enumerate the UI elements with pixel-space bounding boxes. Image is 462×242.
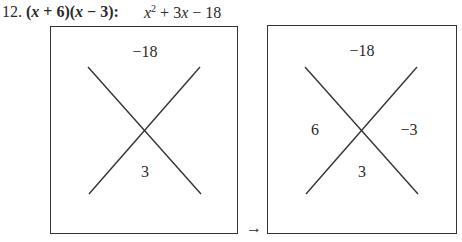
- arrow-icon: →: [246, 219, 262, 237]
- problem-statement: 12. (x + 6)(x − 3):: [2, 3, 119, 21]
- left-factor-label: 6: [311, 121, 319, 139]
- x-box-initial: −18 3: [50, 26, 238, 234]
- bottom-sum-label: 3: [141, 163, 149, 181]
- problem-number: 12.: [2, 3, 22, 20]
- expanded-expression: x2 + 3x − 18: [144, 3, 221, 22]
- bottom-sum-label: 3: [358, 163, 366, 181]
- top-product-label: −18: [132, 43, 157, 61]
- x-box-solved: −18 6 −3 3: [267, 25, 457, 234]
- top-product-label: −18: [349, 42, 374, 60]
- right-factor-label: −3: [400, 121, 417, 139]
- factored-expression: (x + 6)(x − 3):: [26, 3, 119, 20]
